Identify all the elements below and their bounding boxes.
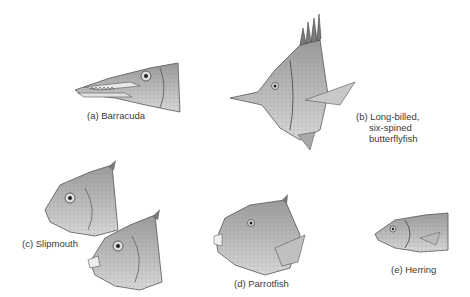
label-herring: (e) Herring [391,264,436,275]
label-butterflyfish: (b) Long-billed, six-spined butterflyfis… [356,111,456,144]
butterflyfish-illustration [230,14,355,150]
label-slipmouth: (c) Slipmouth [22,238,78,249]
label-butterflyfish-line-1: (b) Long-billed, [356,111,456,122]
fish-illustrations [0,0,470,297]
parrotfish-illustration [214,194,305,275]
barracuda-illustration [75,63,180,112]
label-barracuda: (a) Barracuda [87,110,145,121]
slipmouth-closed-illustration [45,160,118,236]
label-butterflyfish-line-2: six-spined [356,122,456,133]
fish-head-figure: (a) Barracuda (b) Long-billed, six-spine… [0,0,470,297]
label-butterflyfish-line-3: butterflyfish [356,133,456,144]
label-parrotfish: (d) Parrotfish [234,278,289,289]
herring-illustration [375,213,448,252]
